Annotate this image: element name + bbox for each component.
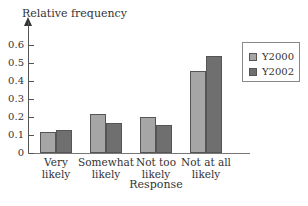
bar-y2000	[90, 114, 106, 154]
y-tick	[29, 45, 34, 46]
legend-swatch-y2000	[249, 53, 257, 61]
bar-y2002	[156, 125, 172, 154]
legend-item-y2000: Y2000	[249, 51, 294, 62]
bar-y2000	[190, 71, 206, 154]
bar-y2000	[140, 117, 156, 153]
bar-y2002	[106, 123, 122, 154]
legend-label-y2002: Y2002	[262, 66, 294, 77]
y-tick	[29, 81, 34, 82]
y-tick	[29, 135, 34, 136]
legend-label-y2000: Y2000	[262, 51, 294, 62]
legend: Y2000 Y2002	[242, 42, 300, 82]
y-tick	[29, 153, 34, 154]
y-tick	[29, 63, 34, 64]
y-axis-title: Relative frequency	[22, 7, 127, 20]
y-tick-label: 0.4	[2, 76, 24, 86]
y-tick-label: 0	[2, 148, 24, 158]
y-tick-label: 0.2	[2, 112, 24, 122]
category-label: Not at alllikely	[176, 156, 236, 180]
y-tick	[29, 99, 34, 100]
y-tick-label: 0.5	[2, 58, 24, 68]
bar-y2000	[40, 132, 56, 154]
y-tick-label: 0.6	[2, 40, 24, 50]
bar-y2002	[206, 56, 222, 153]
legend-swatch-y2002	[249, 68, 257, 76]
bar-y2002	[56, 130, 72, 153]
y-tick-label: 0.1	[2, 130, 24, 140]
y-tick-label: 0.3	[2, 94, 24, 104]
y-tick	[29, 117, 34, 118]
x-axis-title: Response	[116, 178, 196, 191]
legend-item-y2002: Y2002	[249, 66, 294, 77]
